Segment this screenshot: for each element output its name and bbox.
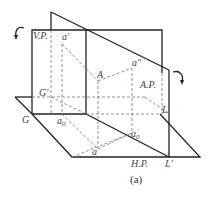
label-ap: A.P. — [139, 79, 156, 90]
projector-a0-to-a — [62, 114, 98, 149]
horizontal-plane-left-edge — [15, 97, 200, 157]
label-G: G — [22, 114, 29, 125]
label-L-prime: L′ — [164, 158, 174, 169]
label-hp: H.P. — [130, 158, 148, 169]
label-A: A — [96, 69, 104, 80]
label-a0-prime: a0′ — [131, 127, 140, 141]
figure-caption: (a) — [130, 173, 143, 186]
orthographic-projection-diagram: V.P. A.P. H.P. a′ A a″ a a0 a0′ G G′ L L… — [0, 0, 212, 197]
label-G-prime: G′ — [39, 87, 49, 98]
label-a-prime: a′ — [62, 31, 70, 42]
label-a-double-prime: a″ — [132, 57, 142, 68]
arrow-head-left-icon — [14, 35, 18, 40]
projector-a-prime-to-A — [62, 44, 98, 81]
arrow-head-right-icon — [180, 80, 184, 85]
rotation-arrow-left-icon — [16, 27, 24, 36]
g-prime-line — [51, 97, 86, 114]
label-L: L — [161, 104, 168, 115]
label-vp: V.P. — [33, 30, 48, 41]
projector-a-to-a0-prime — [98, 133, 132, 149]
hp-hidden-line — [72, 133, 132, 157]
label-a: a — [92, 146, 97, 157]
label-a0: a0 — [57, 115, 66, 128]
